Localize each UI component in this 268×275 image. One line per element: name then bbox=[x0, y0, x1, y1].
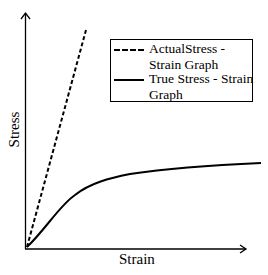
x-axis-label: Strain bbox=[119, 251, 155, 268]
legend-item-true: True Stress - Strain Graph bbox=[114, 71, 254, 103]
solid-line-swatch-icon bbox=[114, 79, 144, 81]
legend-label: ActualStress - Strain Graph bbox=[149, 41, 254, 73]
series-true-stress-strain bbox=[27, 163, 261, 247]
y-axis-label: Stress bbox=[6, 110, 23, 150]
legend-label: True Stress - Strain Graph bbox=[149, 71, 254, 103]
legend-item-actual: ActualStress - Strain Graph bbox=[114, 41, 254, 73]
legend: ActualStress - Strain Graph True Stress … bbox=[110, 39, 253, 102]
dashed-line-swatch-icon bbox=[114, 49, 144, 51]
